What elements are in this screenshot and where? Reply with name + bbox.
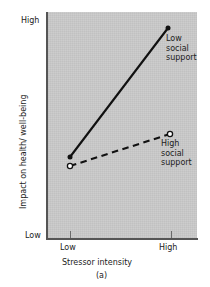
annotation-high-line3: support (161, 158, 192, 168)
x-axis-tick-label-low: Low (60, 243, 76, 253)
series-line-low-social-support (70, 28, 168, 157)
annotation-high-line2: social (161, 149, 192, 159)
annotation-low-line2: social (166, 44, 197, 54)
annotation-high-line1: High (161, 139, 192, 149)
x-axis-title: Stressor intensity (62, 258, 132, 268)
data-point-high-support-low-stressor (67, 163, 72, 168)
panel-caption: (a) (96, 271, 107, 281)
annotation-low-line1: Low (166, 34, 197, 44)
annotation-high-social-support: High social support (161, 139, 192, 168)
annotation-low-line3: support (166, 53, 197, 63)
y-axis-tick-label-low: Low (25, 231, 41, 241)
annotation-low-social-support: Low social support (166, 34, 197, 63)
data-point-high-support-high-stressor (167, 131, 172, 136)
y-axis-tick-label-high: High (21, 16, 39, 26)
data-point-low-support-low-stressor (68, 155, 73, 160)
y-axis-title: Impact on health/ well-being (19, 77, 29, 227)
x-axis-tick-label-high: High (159, 243, 177, 253)
figure-container: Low social support High social support H… (0, 0, 210, 287)
data-point-low-support-high-stressor (166, 26, 171, 31)
